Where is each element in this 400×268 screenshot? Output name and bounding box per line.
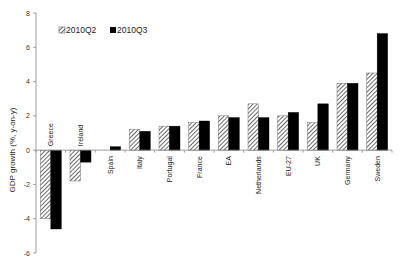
bar-ea-2010q3 [229, 118, 240, 151]
category-label: EU-27 [285, 156, 292, 176]
category-label: Ireland [77, 125, 84, 147]
y-tick-label: 8 [26, 10, 30, 17]
category-label: EA [225, 156, 232, 166]
bar-eu-27-2010q3 [288, 112, 299, 150]
bar-ireland-2010q2 [70, 150, 81, 181]
y-tick-label: 6 [26, 44, 30, 51]
legend: 2010Q2 2010Q3 [59, 25, 148, 35]
bar-italy-2010q2 [129, 130, 140, 151]
bar-germany-2010q3 [348, 83, 359, 150]
gdp-growth-bar-chart: -6-4-202468 GreeceIrelandSpainItalyPortu… [0, 0, 400, 268]
bar-eu-27-2010q2 [278, 116, 289, 150]
y-axis-label: GDP growth (%, y-on-y) [8, 107, 17, 192]
y-tick-label: 4 [26, 78, 30, 85]
bars [40, 34, 387, 229]
category-label: Netherlands [255, 156, 262, 194]
bar-france-2010q3 [199, 121, 210, 150]
bar-ireland-2010q3 [81, 150, 92, 162]
category-label: Spain [107, 156, 115, 174]
bar-uk-2010q2 [307, 123, 318, 150]
y-tick-label: -4 [24, 215, 30, 222]
category-labels: GreeceIrelandSpainItalyPortugalFranceEAN… [47, 123, 380, 194]
category-label: France [196, 156, 203, 178]
bar-sweden-2010q3 [377, 34, 388, 151]
bar-italy-2010q3 [140, 131, 151, 150]
category-label: UK [314, 156, 321, 166]
legend-label-2010q2: 2010Q2 [66, 25, 97, 35]
y-tick-label: -6 [24, 250, 30, 257]
y-tick-label: 0 [26, 147, 30, 154]
bar-spain-2010q3 [110, 147, 121, 150]
bar-greece-2010q2 [40, 150, 51, 219]
y-tick-label: -2 [24, 181, 30, 188]
bar-netherlands-2010q3 [259, 118, 270, 151]
bar-france-2010q2 [189, 123, 200, 150]
category-label: Germany [344, 156, 352, 185]
bar-uk-2010q3 [318, 104, 329, 150]
legend-swatch-2010q2 [59, 27, 65, 33]
category-label: Portugal [166, 156, 174, 183]
bar-portugal-2010q3 [170, 126, 181, 150]
category-label: Sweden [374, 156, 381, 181]
y-axis: -6-4-202468 [24, 10, 36, 257]
category-label: Italy [136, 156, 144, 169]
legend-swatch-2010q3 [110, 27, 116, 33]
legend-label-2010q3: 2010Q3 [117, 25, 148, 35]
bar-germany-2010q2 [337, 83, 348, 150]
category-label: Greece [47, 123, 54, 146]
bar-ea-2010q2 [218, 116, 229, 150]
bar-portugal-2010q2 [159, 126, 170, 150]
bar-greece-2010q3 [51, 150, 62, 229]
y-tick-label: 2 [26, 112, 30, 119]
bar-sweden-2010q2 [367, 73, 378, 150]
bar-netherlands-2010q2 [248, 104, 259, 150]
